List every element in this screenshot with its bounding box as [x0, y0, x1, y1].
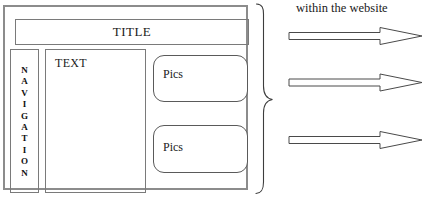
arrow-1-icon — [289, 28, 422, 45]
diagram-canvas: TITLE N A V I G A T I O N TEXT Pics Pics — [0, 0, 425, 197]
right-curly-brace-icon — [256, 4, 273, 194]
arrow-3-icon — [289, 132, 422, 149]
annotation-layer — [0, 0, 425, 197]
arrow-2-icon — [289, 74, 422, 91]
